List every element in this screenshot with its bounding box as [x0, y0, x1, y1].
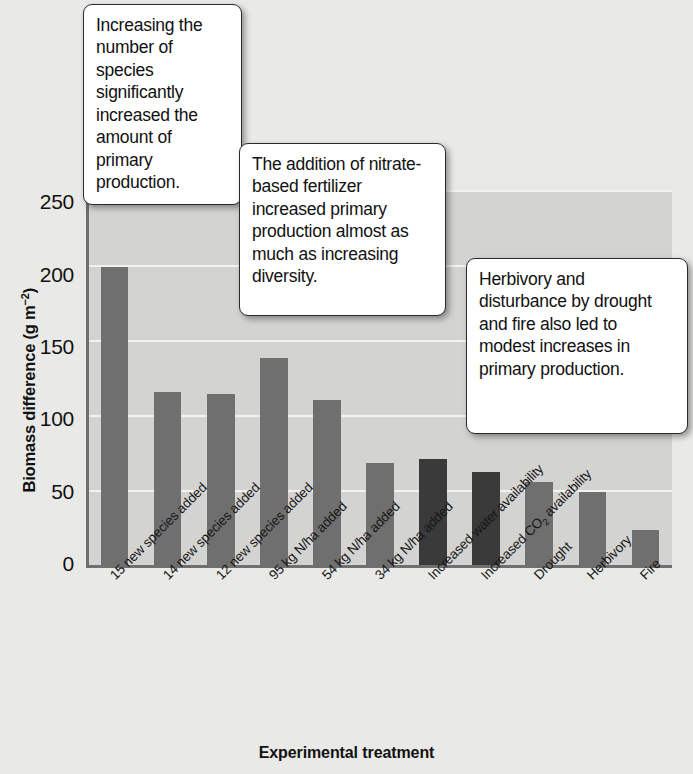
y-axis-title-text: Biomass difference (g m — [20, 305, 38, 492]
y-axis-ticks: 050100150200250 — [0, 0, 84, 774]
bar-0 — [101, 267, 129, 566]
y-tick-250: 250 — [40, 190, 74, 214]
callout-annotation-disturbance: Herbivory and disturbance by drought and… — [466, 258, 688, 434]
y-tick-50: 50 — [51, 480, 74, 504]
bar-chart-figure: 050100150200250 Biomass difference (g m−… — [0, 0, 693, 774]
callout-annotation-diversity: Increasing the number of species signifi… — [83, 4, 242, 205]
callout-annotation-fertilizer: The addition of nitrate-based fertilizer… — [239, 143, 446, 316]
y-axis-title-paren: ) — [20, 288, 38, 293]
y-axis-line — [86, 190, 89, 568]
x-axis-title: Experimental treatment — [0, 744, 693, 762]
y-tick-100: 100 — [40, 407, 74, 431]
y-axis-title: Biomass difference (g m−2) — [19, 235, 40, 545]
y-tick-150: 150 — [40, 335, 74, 359]
y-axis-title-exponent: −2 — [19, 293, 31, 305]
y-tick-0: 0 — [63, 552, 74, 576]
y-tick-200: 200 — [40, 263, 74, 287]
